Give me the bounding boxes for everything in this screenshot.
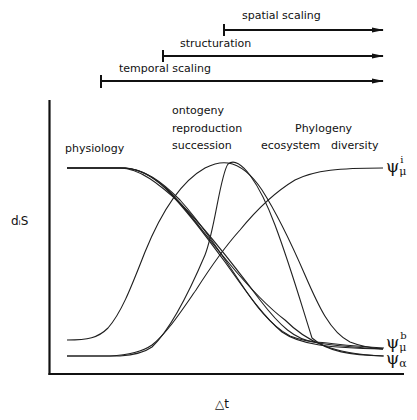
psi-alpha-label: ψα <box>386 350 409 369</box>
structuration-label: structuration <box>180 38 251 50</box>
spatial-scaling-label: spatial scaling <box>242 10 321 22</box>
diversity-label: diversity <box>331 140 378 152</box>
physiology-label: physiology <box>65 143 124 155</box>
ecosystem-label: ecosystem <box>261 140 320 152</box>
curve-phylogeny-rise <box>67 168 383 356</box>
psi-sup: b <box>400 331 406 341</box>
succession-label: succession <box>172 140 232 152</box>
psi-mu-i-label: ψiμ <box>386 158 409 177</box>
curve-physiology-decline <box>67 168 383 356</box>
psi-symbol: ψ <box>386 348 399 368</box>
curve-ontogeny-peak <box>67 163 383 349</box>
psi-symbol: ψ <box>386 156 399 176</box>
psi-sub: α <box>399 358 406 369</box>
psi-sup: i <box>400 155 403 165</box>
x-axis-label: △t <box>215 398 229 410</box>
psi-sub: μ <box>399 166 406 177</box>
temporal-scaling-label: temporal scaling <box>119 63 211 75</box>
phylogeny-label: Phylogeny <box>295 123 352 135</box>
ontogeny-label: ontogeny <box>172 105 224 117</box>
reproduction-label: reproduction <box>172 123 242 135</box>
y-axis-label: dᵢS <box>11 215 28 227</box>
